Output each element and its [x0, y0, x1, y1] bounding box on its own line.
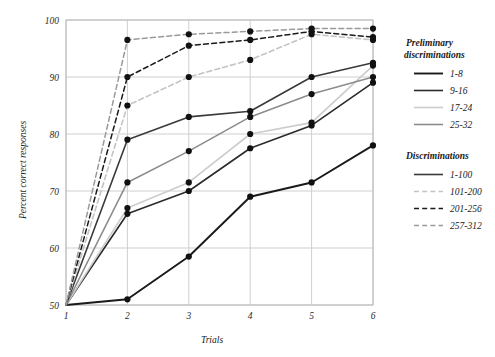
- data-point-1-100-t4: [247, 108, 253, 114]
- data-point-257-312-t5: [309, 25, 315, 31]
- legend-heading-0-line2: discriminations: [404, 50, 465, 60]
- data-point-1-8-t2: [124, 296, 130, 302]
- y-tick-60: 60: [50, 244, 60, 254]
- line-chart-svg: 123456 5060708090100 Preliminarydiscrimi…: [0, 0, 495, 357]
- data-point-25-32-t6: [370, 74, 376, 80]
- data-point-25-32-t2: [124, 179, 130, 185]
- legend-label-9-16: 9-16: [450, 86, 468, 96]
- data-point-25-32-t5: [309, 91, 315, 97]
- legend-heading-0: Preliminary: [406, 38, 454, 48]
- x-axis-tick-labels: 123456: [64, 311, 376, 321]
- data-point-1-100-t3: [186, 114, 192, 120]
- grid-lines: [66, 20, 373, 305]
- data-point-1-8-t4: [247, 194, 253, 200]
- y-axis-tick-labels: 5060708090100: [45, 16, 60, 311]
- chart-figure: 123456 5060708090100 Preliminarydiscrimi…: [0, 0, 495, 357]
- data-point-9-16-t6: [370, 80, 376, 86]
- data-point-101-200-t3: [186, 74, 192, 80]
- data-point-201-256-t4: [247, 37, 253, 43]
- x-tick-4: 4: [248, 311, 253, 321]
- plot-border: [66, 20, 373, 305]
- x-tick-2: 2: [125, 311, 130, 321]
- data-series-layer: [66, 29, 373, 305]
- y-tick-80: 80: [50, 130, 60, 140]
- data-point-17-24-t3: [186, 179, 192, 185]
- data-point-1-100-t6: [370, 60, 376, 66]
- data-point-9-16-t4: [247, 145, 253, 151]
- data-point-25-32-t3: [186, 148, 192, 154]
- legend-label-201-256: 201-256: [450, 204, 482, 214]
- x-tick-6: 6: [371, 311, 376, 321]
- data-point-1-8-t5: [309, 179, 315, 185]
- series-line-201-256: [66, 31, 373, 305]
- legend-heading-1: Discriminations: [405, 151, 469, 161]
- y-axis-title: Percent correct responses: [18, 121, 28, 220]
- data-point-1-8-t6: [370, 142, 376, 148]
- legend-label-17-24: 17-24: [450, 103, 472, 113]
- chart-legend: Preliminarydiscriminations1-89-1617-2425…: [404, 38, 482, 231]
- data-point-257-312-t6: [370, 25, 376, 31]
- series-line-9-16: [66, 83, 373, 305]
- x-tick-5: 5: [309, 311, 314, 321]
- legend-label-101-200: 101-200: [450, 187, 482, 197]
- legend-label-1-8: 1-8: [450, 69, 463, 79]
- data-point-17-24-t5: [309, 120, 315, 126]
- data-point-201-256-t6: [370, 34, 376, 40]
- data-point-257-312-t3: [186, 31, 192, 37]
- legend-label-1-100: 1-100: [450, 170, 472, 180]
- series-line-17-24: [66, 66, 373, 305]
- x-axis-title: Trials: [201, 335, 223, 345]
- data-point-25-32-t4: [247, 114, 253, 120]
- y-tick-100: 100: [45, 16, 60, 26]
- x-tick-1: 1: [64, 311, 69, 321]
- series-line-1-100: [66, 63, 373, 305]
- y-tick-70: 70: [50, 187, 60, 197]
- data-point-1-100-t2: [124, 137, 130, 143]
- data-point-9-16-t3: [186, 188, 192, 194]
- series-line-257-312: [66, 29, 373, 305]
- data-point-257-312-t4: [247, 28, 253, 34]
- y-tick-90: 90: [50, 73, 60, 83]
- data-point-101-200-t4: [247, 57, 253, 63]
- data-point-17-24-t2: [124, 205, 130, 211]
- data-point-9-16-t2: [124, 211, 130, 217]
- data-point-1-8-t3: [186, 253, 192, 259]
- data-point-101-200-t2: [124, 102, 130, 108]
- data-point-1-100-t5: [309, 74, 315, 80]
- legend-label-25-32: 25-32: [450, 120, 472, 130]
- x-tick-3: 3: [185, 311, 191, 321]
- legend-label-257-312: 257-312: [450, 221, 482, 231]
- plot-frame: [66, 20, 373, 305]
- data-point-17-24-t4: [247, 131, 253, 137]
- y-tick-50: 50: [50, 301, 60, 311]
- data-point-257-312-t2: [124, 37, 130, 43]
- data-point-201-256-t3: [186, 43, 192, 49]
- data-point-201-256-t2: [124, 74, 130, 80]
